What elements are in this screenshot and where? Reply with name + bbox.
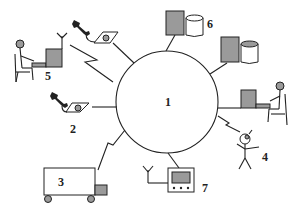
node-4: 4 [218,116,268,169]
wireless-link-icon [98,130,125,170]
hub-circle: 1 [116,51,218,153]
node-6: 6 [166,11,213,51]
telephone-icon [72,20,134,63]
wireless-link-icon [70,45,113,82]
node-7: 7 [143,153,208,195]
node-label-3: 3 [58,175,64,189]
node-3: 3 [44,130,125,203]
television-antenna-icon [143,166,194,192]
server-database-icon [166,11,203,37]
node-label-2: 2 [70,122,76,136]
node-label-7: 7 [202,181,208,195]
hub-label: 1 [165,95,171,109]
node-2: 2 [50,92,117,136]
node-label-5: 5 [45,69,51,83]
seated-user-computer-icon [218,82,287,125]
server-database-icon [210,37,258,74]
network-diagram: 1 5 2 [0,0,300,213]
person-with-phone-icon [237,130,259,169]
node-label-4: 4 [262,150,268,164]
seated-user-computer-icon [15,33,67,82]
wireless-link-icon [218,116,240,132]
truck-icon [44,168,107,203]
node-label-6: 6 [207,17,213,31]
